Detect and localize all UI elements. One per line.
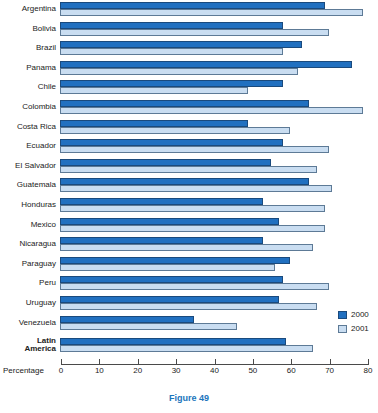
category-label: Peru xyxy=(0,279,60,287)
legend-label-2001: 2001 xyxy=(351,324,369,333)
axis-tick xyxy=(330,359,331,364)
bar-2001 xyxy=(60,303,317,310)
bar-2000 xyxy=(60,120,248,127)
bar-2001 xyxy=(60,87,248,94)
axis-tick-label: 30 xyxy=(172,366,181,375)
legend-label-2000: 2000 xyxy=(351,310,369,319)
bar-group: Honduras xyxy=(0,198,378,212)
axis-tick-label: 40 xyxy=(210,366,219,375)
bar-2001 xyxy=(60,107,363,114)
bar-pair xyxy=(60,338,313,352)
bar-group: Costa Rica xyxy=(0,120,378,134)
bar-pair xyxy=(60,257,290,271)
bar-2000 xyxy=(60,22,283,29)
axis-tick-label: 20 xyxy=(133,366,142,375)
bar-pair xyxy=(60,120,290,134)
bar-group: Nicaragua xyxy=(0,237,378,251)
bar-group: Brazil xyxy=(0,41,378,55)
bar-group: Paraguay xyxy=(0,257,378,271)
bar-pair xyxy=(60,296,317,310)
bar-2000 xyxy=(60,276,283,283)
bar-pair xyxy=(60,178,332,192)
bar-2001 xyxy=(60,9,363,16)
bar-2000 xyxy=(60,296,279,303)
bar-pair xyxy=(60,139,329,153)
bar-group: Latin America xyxy=(0,337,378,353)
category-label: Ecuador xyxy=(0,142,60,150)
category-label: Colombia xyxy=(0,103,60,111)
bar-group: Peru xyxy=(0,276,378,290)
category-label: Chile xyxy=(0,83,60,91)
axis-tick-label: 0 xyxy=(59,366,63,375)
axis-tick xyxy=(291,359,292,364)
bar-group: Bolivia xyxy=(0,22,378,36)
axis-tick-label: 60 xyxy=(287,366,296,375)
bar-2000 xyxy=(60,100,309,107)
axis-tick-label: 80 xyxy=(364,366,373,375)
bar-2000 xyxy=(60,61,352,68)
bar-2001 xyxy=(60,127,290,134)
bar-group: Colombia xyxy=(0,100,378,114)
category-label: Brazil xyxy=(0,44,60,52)
bar-pair xyxy=(60,2,363,16)
bar-pair xyxy=(60,22,329,36)
legend: 2000 2001 xyxy=(338,310,369,338)
category-label: Nicaragua xyxy=(0,240,60,248)
bar-2001 xyxy=(60,29,329,36)
bar-2000 xyxy=(60,316,194,323)
category-label: Costa Rica xyxy=(0,123,60,131)
bar-2001 xyxy=(60,244,313,251)
bar-2001 xyxy=(60,205,325,212)
category-label: Uruguay xyxy=(0,299,60,307)
bar-pair xyxy=(60,100,363,114)
category-label: Guatemala xyxy=(0,181,60,189)
axis-tick xyxy=(61,359,62,364)
legend-swatch-2001 xyxy=(338,325,347,333)
bar-2000 xyxy=(60,2,325,9)
x-axis-title: Percentage xyxy=(3,366,44,375)
bar-group: Mexico xyxy=(0,218,378,232)
axis-tick xyxy=(138,359,139,364)
bar-2000 xyxy=(60,198,263,205)
bar-group: Panama xyxy=(0,61,378,75)
axis-tick xyxy=(215,359,216,364)
rows: ArgentinaBoliviaBrazilPanamaChileColombi… xyxy=(0,2,378,353)
category-label: Mexico xyxy=(0,221,60,229)
bar-chart: ArgentinaBoliviaBrazilPanamaChileColombi… xyxy=(0,0,378,377)
category-label: Venezuela xyxy=(0,319,60,327)
category-label: Honduras xyxy=(0,201,60,209)
bar-pair xyxy=(60,276,329,290)
bar-pair xyxy=(60,316,237,330)
bar-pair xyxy=(60,80,283,94)
bar-2000 xyxy=(60,338,286,345)
bar-pair xyxy=(60,237,313,251)
bar-group: Guatemala xyxy=(0,178,378,192)
axis-tick xyxy=(99,359,100,364)
x-axis-ticklabels: Percentage 01020304050607080 xyxy=(0,366,378,377)
axis-tick xyxy=(368,359,369,364)
legend-item-2000: 2000 xyxy=(338,310,369,319)
category-label: Bolivia xyxy=(0,25,60,33)
figure-caption: Figure 49 xyxy=(0,393,378,403)
axis-tick xyxy=(176,359,177,364)
bar-2000 xyxy=(60,178,309,185)
bar-pair xyxy=(60,198,325,212)
bar-2001 xyxy=(60,185,332,192)
bar-2001 xyxy=(60,264,275,271)
axis-tick-label: 50 xyxy=(248,366,257,375)
bar-2000 xyxy=(60,159,271,166)
axis-tick-label: 10 xyxy=(95,366,104,375)
category-label: Argentina xyxy=(0,5,60,13)
bar-2001 xyxy=(60,345,313,352)
legend-item-2001: 2001 xyxy=(338,324,369,333)
category-label: Paraguay xyxy=(0,260,60,268)
bar-pair xyxy=(60,218,325,232)
bar-pair xyxy=(60,61,352,75)
category-label: El Salvador xyxy=(0,162,60,170)
bar-2000 xyxy=(60,80,283,87)
bar-pair xyxy=(60,41,302,55)
x-axis-line xyxy=(61,358,369,365)
bar-2000 xyxy=(60,139,283,146)
bar-group: Argentina xyxy=(0,2,378,16)
bar-group: Chile xyxy=(0,80,378,94)
